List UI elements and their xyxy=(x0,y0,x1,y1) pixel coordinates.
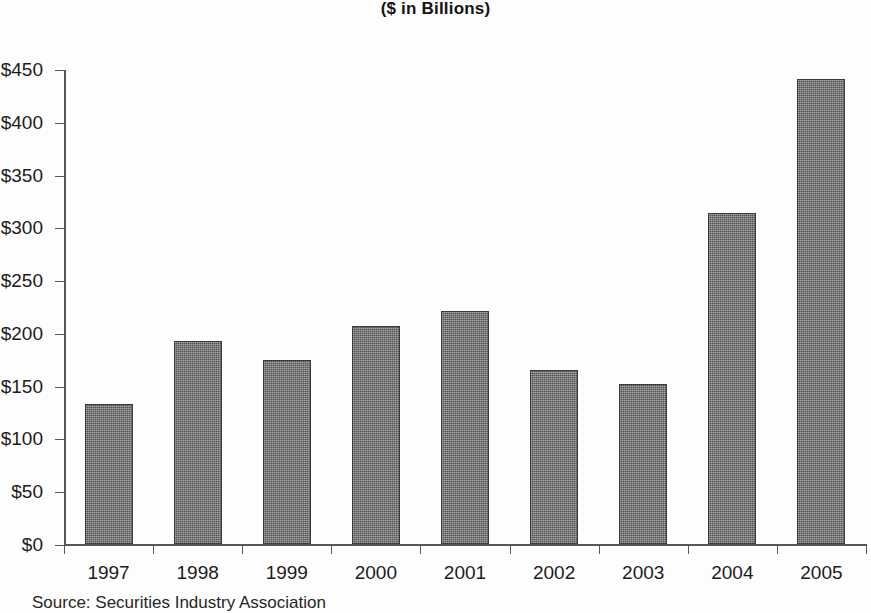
y-axis-label: $200 xyxy=(1,323,43,345)
y-axis-label: $300 xyxy=(1,217,43,239)
y-axis-tick xyxy=(55,387,65,388)
y-axis-label: $50 xyxy=(11,481,43,503)
x-axis-tick xyxy=(866,544,867,554)
plot-area: $0$50$100$150$200$250$300$350$400$450 19… xyxy=(64,70,866,545)
x-axis-label-2005: 2005 xyxy=(800,562,842,584)
x-axis-label-1997: 1997 xyxy=(87,562,129,584)
y-axis-label: $350 xyxy=(1,165,43,187)
y-axis-tick xyxy=(55,123,65,124)
x-axis-tick xyxy=(777,544,778,554)
x-axis-tick xyxy=(153,544,154,554)
x-axis-line xyxy=(64,544,866,546)
x-axis-label-2002: 2002 xyxy=(533,562,575,584)
x-axis-tick xyxy=(510,544,511,554)
x-axis-label-2004: 2004 xyxy=(711,562,753,584)
x-axis-tick xyxy=(331,544,332,554)
bar-2001 xyxy=(441,311,489,544)
bar-1998 xyxy=(174,341,222,544)
y-axis-tick xyxy=(55,228,65,229)
y-axis-tick xyxy=(55,176,65,177)
y-axis-tick xyxy=(55,70,65,71)
x-axis-label-2001: 2001 xyxy=(444,562,486,584)
bar-2004 xyxy=(708,213,756,544)
x-axis-label-2003: 2003 xyxy=(622,562,664,584)
y-axis-label: $250 xyxy=(1,270,43,292)
y-axis-label: $450 xyxy=(1,59,43,81)
bar-2002 xyxy=(530,370,578,544)
source-note: Source: Securities Industry Association xyxy=(32,593,326,613)
x-axis-tick xyxy=(688,544,689,554)
y-axis-label: $400 xyxy=(1,112,43,134)
y-axis-tick xyxy=(55,439,65,440)
y-axis-line xyxy=(64,70,66,546)
bar-2005 xyxy=(797,79,845,545)
x-axis-tick xyxy=(420,544,421,554)
y-axis-tick xyxy=(55,281,65,282)
y-axis-tick xyxy=(55,492,65,493)
x-axis-label-2000: 2000 xyxy=(355,562,397,584)
bar-2003 xyxy=(619,384,667,544)
y-axis-label: $100 xyxy=(1,428,43,450)
x-axis-tick xyxy=(599,544,600,554)
bar-2000 xyxy=(352,326,400,545)
y-axis-label: $150 xyxy=(1,376,43,398)
y-axis-label: $0 xyxy=(22,534,43,556)
x-axis-tick xyxy=(64,544,65,554)
bar-1997 xyxy=(85,404,133,544)
x-axis-label-1999: 1999 xyxy=(266,562,308,584)
bar-1999 xyxy=(263,360,311,544)
x-axis-tick xyxy=(242,544,243,554)
chart-title: ($ in Billions) xyxy=(0,0,871,19)
y-axis-tick xyxy=(55,334,65,335)
x-axis-label-1998: 1998 xyxy=(177,562,219,584)
